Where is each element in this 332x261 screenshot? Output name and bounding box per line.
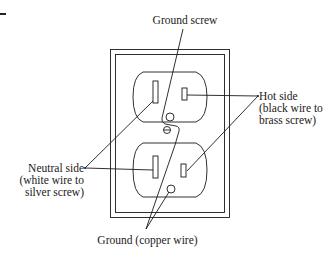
hot-side-label: Hot side (black wire to brass screw): [259, 90, 323, 126]
ground-screw-label: Ground screw: [150, 14, 220, 26]
ground-wire-label: Ground (copper wire): [90, 234, 205, 246]
hot-leader-lower: [187, 96, 258, 171]
hot-side-label-line-3: brass screw): [259, 114, 323, 126]
neutral-leader-upper: [85, 101, 153, 168]
neutral-side-label-line-3: silver screw): [4, 186, 84, 198]
neutral-side-label-line-2: (white wire to: [4, 174, 84, 186]
wall-plate-inner: [116, 55, 225, 213]
neutral-slot-lower: [153, 156, 158, 178]
ground-leader-hole: [146, 192, 169, 229]
hot-slot-upper: [182, 88, 187, 100]
neutral-slot-upper: [153, 81, 158, 103]
receptacle-diagram: [0, 0, 332, 261]
hot-leader-upper: [187, 95, 258, 96]
hot-slot-lower: [181, 164, 186, 177]
neutral-side-label: Neutral side (white wire to silver screw…: [4, 162, 84, 198]
hot-side-label-line-2: (black wire to: [259, 102, 323, 114]
ground-screw: [166, 113, 174, 121]
upper-outlet: [133, 72, 207, 122]
ground-leader-screw: [146, 145, 175, 229]
neutral-leader-lower: [85, 168, 153, 170]
wall-plate-outer: [111, 50, 230, 218]
neutral-side-label-line-1: Neutral side: [4, 162, 84, 174]
ground-hole-lower: [167, 185, 175, 193]
hot-side-label-line-1: Hot side: [259, 90, 323, 102]
